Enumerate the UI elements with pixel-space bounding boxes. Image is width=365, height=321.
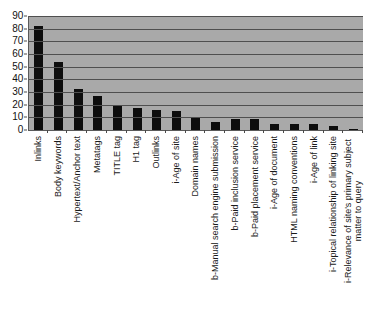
- x-label-cell: HTML naming conventions: [284, 134, 304, 321]
- x-label-cell: i-Age of link: [304, 134, 324, 321]
- bar-slot: [265, 16, 285, 130]
- y-tick-mark: [24, 117, 27, 118]
- y-tick-label: 60: [12, 49, 23, 59]
- bar: [93, 96, 102, 130]
- bar: [74, 89, 83, 130]
- y-tick-label: 80: [12, 24, 23, 34]
- y-axis: 9080706050403020100: [0, 10, 27, 137]
- x-label-cell: Metatags: [87, 134, 107, 321]
- bar-slot: [147, 16, 167, 130]
- y-tick-label: 90: [12, 11, 23, 21]
- gridline: [29, 79, 363, 80]
- bar: [211, 122, 220, 130]
- x-axis-label: Metatags: [92, 136, 102, 173]
- bar-slot: [166, 16, 186, 130]
- x-axis-label: i-Age of link: [309, 136, 319, 183]
- bar-slot: [225, 16, 245, 130]
- x-label-cell: TITLE tag: [107, 134, 127, 321]
- x-axis-label: b-Paid inclusion service: [230, 136, 240, 231]
- bar: [152, 110, 161, 130]
- bar-slot: [245, 16, 265, 130]
- x-axis-label: H1 tag: [131, 136, 141, 163]
- x-label-cell: b-Paid placement service: [245, 134, 265, 321]
- y-tick-label: 20: [12, 100, 23, 110]
- bar-slot: [68, 16, 88, 130]
- bar-slot: [304, 16, 324, 130]
- y-tick-label: 70: [12, 36, 23, 46]
- x-label-cell: b-Manual search engine submission: [205, 134, 225, 321]
- bar: [191, 117, 200, 130]
- x-label-cell: Domain names: [186, 134, 206, 321]
- bar: [54, 62, 63, 130]
- y-tick-mark: [24, 41, 27, 42]
- bar-slot: [206, 16, 226, 130]
- bar-slot: [343, 16, 363, 130]
- bar: [172, 111, 181, 130]
- y-tick-mark: [24, 28, 27, 29]
- bar-slot: [186, 16, 206, 130]
- y-tick-mark: [24, 104, 27, 105]
- bar-slot: [108, 16, 128, 130]
- x-axis-label: Hypertext/Anchor text: [72, 136, 82, 223]
- bar: [133, 108, 142, 130]
- bar-slot: [29, 16, 49, 130]
- y-tick-label: 30: [12, 87, 23, 97]
- x-axis-label: i-Topical relationship of linking site: [328, 136, 338, 272]
- plot-area: [28, 16, 363, 131]
- x-axis-label: HTML naming conventions: [289, 136, 299, 243]
- bar: [231, 119, 240, 130]
- bar-slot: [127, 16, 147, 130]
- bar-slot: [324, 16, 344, 130]
- y-tick-mark: [24, 79, 27, 80]
- x-label-cell: H1 tag: [127, 134, 147, 321]
- gridline: [29, 92, 363, 93]
- x-axis-label: TITLE tag: [112, 136, 122, 176]
- x-label-cell: Outlinks: [146, 134, 166, 321]
- y-tick-label: 0: [18, 125, 23, 135]
- x-axis-label: Inlinks: [33, 136, 43, 162]
- gridline: [29, 16, 363, 17]
- x-label-cell: i-Topical relationship of linking site: [324, 134, 344, 321]
- x-axis-label: Domain names: [190, 136, 200, 197]
- bar-slot: [49, 16, 69, 130]
- y-tick-label: 10: [12, 112, 23, 122]
- x-axis-label: i-Age of document: [269, 136, 279, 209]
- x-label-cell: Hypertext/Anchor text: [67, 134, 87, 321]
- y-tick-mark: [24, 16, 27, 17]
- bar-chart: 9080706050403020100 InlinksBody keywords…: [0, 0, 365, 321]
- x-axis-label: b-Manual search engine submission: [210, 136, 220, 280]
- y-tick-mark: [24, 54, 27, 55]
- gridline: [29, 105, 363, 106]
- y-tick-mark: [24, 66, 27, 67]
- bar-slot: [88, 16, 108, 130]
- y-tick-label: 40: [12, 74, 23, 84]
- bar: [250, 119, 259, 130]
- x-label-cell: i-Relevance of site's primary subject ma…: [343, 134, 363, 321]
- x-label-cell: i-Age of site: [166, 134, 186, 321]
- x-axis-label: i-Relevance of site's primary subject ma…: [343, 136, 363, 286]
- bar-series: [29, 16, 363, 130]
- gridline: [29, 117, 363, 118]
- x-label-cell: Body keywords: [48, 134, 68, 321]
- x-axis-labels: InlinksBody keywordsHypertext/Anchor tex…: [28, 134, 363, 321]
- gridline: [29, 67, 363, 68]
- gridline: [29, 41, 363, 42]
- bar-slot: [284, 16, 304, 130]
- x-label-cell: b-Paid inclusion service: [225, 134, 245, 321]
- x-label-cell: i-Age of document: [264, 134, 284, 321]
- y-tick-label: 50: [12, 62, 23, 72]
- gridline: [29, 29, 363, 30]
- x-axis-label: Outlinks: [151, 136, 161, 169]
- x-axis-label: Body keywords: [53, 136, 63, 197]
- x-label-cell: Inlinks: [28, 134, 48, 321]
- y-tick-mark: [24, 130, 27, 131]
- x-axis-label: i-Age of site: [171, 136, 181, 184]
- x-axis-label: b-Paid placement service: [250, 136, 260, 237]
- gridline: [29, 54, 363, 55]
- y-tick-mark: [24, 92, 27, 93]
